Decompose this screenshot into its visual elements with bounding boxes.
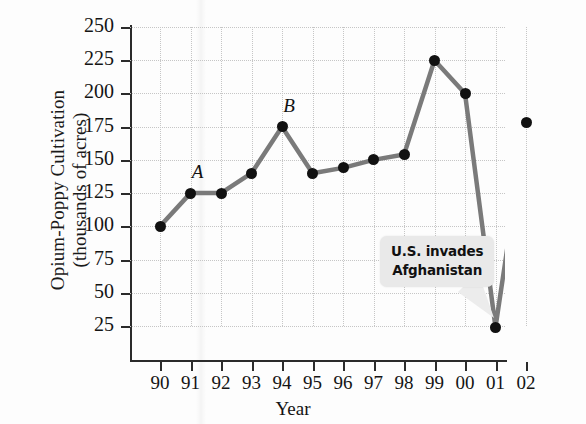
y-axis-tick: [121, 160, 130, 162]
y-axis-tick-label: 75: [60, 247, 114, 270]
data-point: [246, 168, 257, 179]
x-axis-tick: [160, 362, 162, 371]
data-point: [216, 188, 227, 199]
y-axis-tick: [121, 326, 130, 328]
y-axis-tick-label: 225: [60, 47, 114, 70]
data-point: [338, 162, 349, 173]
x-axis-tick: [374, 362, 376, 371]
x-axis-tick: [465, 362, 467, 371]
data-point: [490, 322, 501, 333]
data-point: [155, 221, 166, 232]
y-axis-tick: [121, 127, 130, 129]
y-axis-tick-label: 25: [60, 313, 114, 336]
data-point: [399, 149, 410, 160]
y-axis-tick: [121, 226, 130, 228]
x-axis-tick: [343, 362, 345, 371]
data-point: [429, 55, 440, 66]
y-axis-tick: [121, 260, 130, 262]
x-axis-tick: [435, 362, 437, 371]
y-gridline: [130, 326, 505, 327]
y-axis-tick: [121, 27, 130, 29]
annotation-callout: U.S. invades Afghanistan: [380, 236, 494, 287]
data-point: [521, 117, 532, 128]
y-axis-tick: [121, 60, 130, 62]
x-axis-tick: [526, 362, 528, 371]
y-axis-tick-label: 250: [60, 14, 114, 37]
x-axis-tick: [252, 362, 254, 371]
data-point: [460, 88, 471, 99]
x-axis-tick-label: 02: [506, 372, 546, 394]
x-axis-tick: [282, 362, 284, 371]
x-axis-title: Year: [0, 398, 586, 420]
data-point: [185, 188, 196, 199]
y-axis-tick: [121, 293, 130, 295]
y-axis-tick-label: 200: [60, 80, 114, 103]
x-axis-tick: [404, 362, 406, 371]
annotation-line1: U.S. invades: [391, 242, 483, 261]
y-axis-tick-label: 100: [60, 213, 114, 236]
y-axis-tick-label: 125: [60, 180, 114, 203]
x-axis-tick: [496, 362, 498, 371]
data-point: [277, 121, 288, 132]
y-axis-tick: [121, 93, 130, 95]
annotation-line2: Afghanistan: [391, 261, 483, 280]
data-point-label-b: B: [274, 95, 304, 117]
x-axis-tick: [221, 362, 223, 371]
y-axis-tick-label: 50: [60, 280, 114, 303]
chart-figure: Opium-Poppy Cultivation (thousands of ac…: [0, 0, 586, 424]
data-point: [307, 168, 318, 179]
x-axis-tick: [191, 362, 193, 371]
y-axis-tick-label: 175: [60, 114, 114, 137]
x-axis-line: [130, 360, 507, 362]
y-axis-tick-label: 150: [60, 147, 114, 170]
data-point-label-a: A: [183, 161, 213, 183]
x-axis-tick: [313, 362, 315, 371]
y-axis-tick: [121, 193, 130, 195]
x-gridline: [526, 27, 527, 326]
